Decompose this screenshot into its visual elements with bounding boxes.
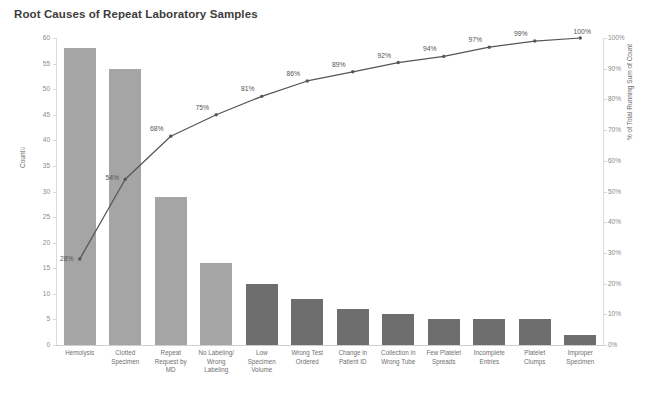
y-axis-right-tick-label: 50% bbox=[608, 188, 638, 195]
x-axis-category-label-line: Hemolysis bbox=[57, 349, 103, 358]
y-axis-right-tick-mark bbox=[604, 314, 607, 315]
bar[interactable] bbox=[200, 263, 232, 345]
x-axis-category-label[interactable]: ImproperSpecimen bbox=[558, 349, 604, 366]
x-axis-category-label-line: Wrong Test bbox=[285, 349, 331, 358]
y-axis-left-tick-label: 25 bbox=[28, 213, 50, 220]
y-axis-right-tick-label: 90% bbox=[608, 65, 638, 72]
x-axis-category-label[interactable]: No Labeling/WrongLabeling bbox=[194, 349, 240, 375]
y-axis-left-tick-mark bbox=[53, 294, 56, 295]
x-axis-category-label[interactable]: ClottedSpecimen bbox=[103, 349, 149, 366]
y-axis-left-tick-label: 30 bbox=[28, 188, 50, 195]
bar[interactable] bbox=[64, 48, 96, 345]
y-axis-left-tick-label: 5 bbox=[28, 315, 50, 322]
y-axis-right-tick-mark bbox=[604, 38, 607, 39]
y-axis-left-tick-label: 15 bbox=[28, 264, 50, 271]
x-axis-category-label[interactable]: Change inPatient ID bbox=[330, 349, 376, 366]
x-axis-category-label[interactable]: Collection inWrong Tube bbox=[376, 349, 422, 366]
y-axis-left-tick-label: 60 bbox=[28, 34, 50, 41]
y-axis-left-tick-label: 50 bbox=[28, 85, 50, 92]
bar[interactable] bbox=[155, 197, 187, 345]
x-axis-category-label-line: Entries bbox=[467, 358, 513, 367]
cumulative-percent-label: 100% bbox=[574, 28, 591, 35]
x-axis-category-label-line: No Labeling/ bbox=[194, 349, 240, 358]
y-axis-left-tick-label: 55 bbox=[28, 60, 50, 67]
y-axis-left-tick-label: 35 bbox=[28, 162, 50, 169]
y-axis-right-tick-label: 70% bbox=[608, 126, 638, 133]
y-axis-left-tick-mark bbox=[53, 217, 56, 218]
cumulative-percent-label: 99% bbox=[514, 30, 528, 37]
x-axis-category-label-line: Patient ID bbox=[330, 358, 376, 367]
y-axis-left-tick-mark bbox=[53, 140, 56, 141]
cumulative-percent-label: 86% bbox=[286, 70, 300, 77]
y-axis-right-tick-mark bbox=[604, 130, 607, 131]
y-axis-left-tick-label: 40 bbox=[28, 136, 50, 143]
x-axis-category-label-line: Specimen bbox=[558, 358, 604, 367]
y-axis-right-tick-label: 80% bbox=[608, 95, 638, 102]
y-axis-right-tick-mark bbox=[604, 284, 607, 285]
y-axis-right-tick-label: 0% bbox=[608, 341, 638, 348]
x-axis-category-label[interactable]: Hemolysis bbox=[57, 349, 103, 358]
x-axis-category-label-line: Volume bbox=[239, 366, 285, 375]
y-axis-right-tick-mark bbox=[604, 99, 607, 100]
x-axis-category-label-line: Clumps bbox=[512, 358, 558, 367]
y-axis-left-tick-mark bbox=[53, 115, 56, 116]
bar[interactable] bbox=[473, 319, 505, 345]
x-axis-category-label-line: Collection in bbox=[376, 349, 422, 358]
y-axis-left-tick-label: 20 bbox=[28, 239, 50, 246]
cumulative-percent-label: 81% bbox=[241, 85, 255, 92]
x-axis-category-label-line: Few Platelet bbox=[421, 349, 467, 358]
y-axis-right-tick-mark bbox=[604, 222, 607, 223]
x-axis-category-label-line: Request by bbox=[148, 358, 194, 367]
x-axis-category-label[interactable]: LowSpecimenVolume bbox=[239, 349, 285, 375]
bars-layer bbox=[57, 38, 603, 345]
bar[interactable] bbox=[428, 319, 460, 345]
y-axis-left-title: Count⇩ bbox=[19, 108, 26, 168]
cumulative-percent-label: 92% bbox=[377, 52, 391, 59]
y-axis-right-tick-label: 100% bbox=[608, 34, 638, 41]
x-axis-category-label[interactable]: PlateletClumps bbox=[512, 349, 558, 366]
y-axis-left-tick-mark bbox=[53, 38, 56, 39]
y-axis-right-tick-label: 20% bbox=[608, 280, 638, 287]
pareto-chart: Root Causes of Repeat Laboratory Samples… bbox=[0, 0, 661, 397]
x-axis-category-label[interactable]: Wrong TestOrdered bbox=[285, 349, 331, 366]
cumulative-percent-label: 68% bbox=[150, 125, 164, 132]
bar[interactable] bbox=[382, 314, 414, 345]
x-axis-category-label[interactable]: Few PlateletSpreads bbox=[421, 349, 467, 366]
y-axis-right-tick-mark bbox=[604, 253, 607, 254]
cumulative-percent-label: 54% bbox=[105, 174, 119, 181]
x-axis-category-label[interactable]: IncompleteEntries bbox=[467, 349, 513, 366]
cumulative-percent-label: 89% bbox=[332, 61, 346, 68]
x-axis-category-label-line: Wrong Tube bbox=[376, 358, 422, 367]
y-axis-right-tick-label: 60% bbox=[608, 157, 638, 164]
bar[interactable] bbox=[337, 309, 369, 345]
x-axis-category-label-line: Improper bbox=[558, 349, 604, 358]
y-axis-left-title-text: Count bbox=[19, 151, 26, 168]
y-axis-right-tick-label: 40% bbox=[608, 218, 638, 225]
y-axis-left-tick-mark bbox=[53, 268, 56, 269]
sort-descending-icon: ⇩ bbox=[20, 146, 26, 151]
cumulative-percent-label: 75% bbox=[195, 104, 209, 111]
y-axis-right-tick-label: 10% bbox=[608, 310, 638, 317]
cumulative-percent-label: 94% bbox=[423, 45, 437, 52]
y-axis-left-tick-label: 0 bbox=[28, 341, 50, 348]
cumulative-percent-label: 97% bbox=[468, 36, 482, 43]
x-axis-category-label-line: Wrong bbox=[194, 358, 240, 367]
x-axis-category-label-line: MD bbox=[148, 366, 194, 375]
x-axis-category-label[interactable]: RepeatRequest byMD bbox=[148, 349, 194, 375]
y-axis-left-tick-label: 10 bbox=[28, 290, 50, 297]
y-axis-right-tick-mark bbox=[604, 345, 607, 346]
y-axis-right-tick-mark bbox=[604, 69, 607, 70]
x-axis-category-label-line: Specimen bbox=[239, 358, 285, 367]
bar[interactable] bbox=[519, 319, 551, 345]
bar[interactable] bbox=[109, 69, 141, 345]
bar[interactable] bbox=[291, 299, 323, 345]
bar[interactable] bbox=[246, 284, 278, 345]
x-axis-category-label-line: Ordered bbox=[285, 358, 331, 367]
y-axis-right-tick-mark bbox=[604, 192, 607, 193]
y-axis-right-tick-mark bbox=[604, 161, 607, 162]
y-axis-right-tick-label: 30% bbox=[608, 249, 638, 256]
y-axis-left-tick-mark bbox=[53, 319, 56, 320]
cumulative-percent-label: 28% bbox=[60, 255, 74, 262]
y-axis-left-tick-mark bbox=[53, 166, 56, 167]
bar[interactable] bbox=[564, 335, 596, 345]
